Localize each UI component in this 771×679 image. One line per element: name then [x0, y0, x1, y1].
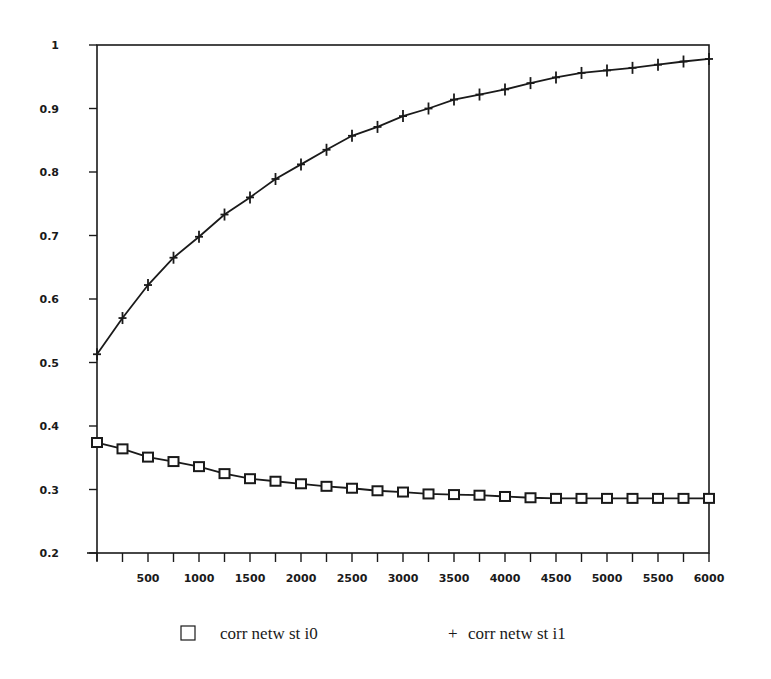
square-marker-icon — [373, 486, 383, 495]
x-tick-label: 4500 — [541, 572, 572, 585]
x-tick-label: 6000 — [694, 572, 725, 585]
x-tick-label: 500 — [137, 572, 160, 585]
square-marker-icon — [577, 494, 587, 503]
y-tick-label: 1 — [51, 39, 59, 52]
legend-square-icon — [181, 626, 195, 640]
series-i1 — [93, 53, 713, 360]
y-tick-label: 0.3 — [40, 484, 60, 497]
y-tick-label: 0.4 — [40, 420, 60, 433]
square-marker-icon — [679, 494, 689, 503]
legend-label-i1: corr netw st i1 — [468, 624, 566, 643]
square-marker-icon — [398, 488, 408, 497]
square-marker-icon — [220, 469, 230, 478]
square-marker-icon — [322, 482, 332, 491]
x-tick-label: 4000 — [490, 572, 521, 585]
square-marker-icon — [118, 444, 128, 453]
square-marker-icon — [526, 493, 536, 502]
series-line — [97, 59, 709, 354]
y-tick-label: 0.7 — [40, 230, 60, 243]
square-marker-icon — [169, 457, 179, 466]
plot-axes — [87, 45, 709, 561]
line-chart: 10.90.80.70.60.50.40.30.2 50010001500200… — [0, 0, 771, 679]
y-tick-label: 0.6 — [40, 293, 60, 306]
square-marker-icon — [271, 477, 281, 486]
legend-plus-icon: + — [448, 624, 458, 643]
legend-label-i0: corr netw st i0 — [220, 624, 318, 643]
y-tick-label: 0.8 — [40, 166, 60, 179]
series-i0 — [92, 438, 714, 503]
square-marker-icon — [143, 453, 153, 462]
square-marker-icon — [500, 492, 510, 501]
x-tick-label: 1500 — [235, 572, 266, 585]
square-marker-icon — [194, 462, 204, 471]
square-marker-icon — [628, 494, 638, 503]
square-marker-icon — [92, 438, 102, 447]
y-tick-label: 0.5 — [40, 357, 60, 370]
x-tick-label: 1000 — [184, 572, 215, 585]
square-marker-icon — [602, 494, 612, 503]
x-tick-label: 3500 — [439, 572, 470, 585]
square-marker-icon — [245, 474, 255, 483]
y-axis-ticks: 10.90.80.70.60.50.40.30.2 — [40, 39, 98, 560]
x-tick-label: 2000 — [286, 572, 317, 585]
square-marker-icon — [551, 494, 561, 503]
square-marker-icon — [475, 491, 485, 500]
y-tick-label: 0.2 — [40, 547, 60, 560]
data-series — [92, 53, 714, 503]
square-marker-icon — [424, 489, 434, 498]
x-tick-label: 3000 — [388, 572, 419, 585]
x-tick-label: 5000 — [592, 572, 623, 585]
square-marker-icon — [347, 484, 357, 493]
square-marker-icon — [449, 490, 459, 499]
square-marker-icon — [653, 494, 663, 503]
x-axis-ticks: 5001000150020002500300035004000450050005… — [97, 553, 725, 585]
square-marker-icon — [296, 479, 306, 488]
legend: corr netw st i0 + corr netw st i1 — [181, 624, 566, 643]
square-marker-icon — [704, 494, 714, 503]
y-tick-label: 0.9 — [40, 103, 60, 116]
x-tick-label: 5500 — [643, 572, 674, 585]
x-tick-label: 2500 — [337, 572, 368, 585]
